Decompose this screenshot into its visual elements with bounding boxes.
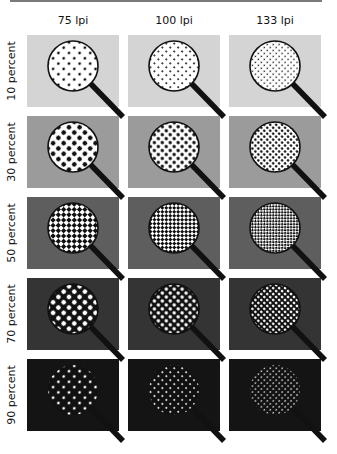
panel-50-percent-100-lpi bbox=[128, 197, 224, 279]
magnifier-lens-icon bbox=[250, 203, 300, 253]
magnifier-lens-icon bbox=[149, 365, 199, 415]
panel-10-percent-133-lpi bbox=[229, 35, 325, 117]
panel-90-percent-133-lpi bbox=[229, 359, 325, 441]
magnifier-lens-icon bbox=[250, 122, 300, 172]
panel-70-percent-100-lpi bbox=[128, 278, 224, 360]
magnifier-lens-icon bbox=[250, 284, 300, 334]
panel-50-percent-133-lpi bbox=[229, 197, 325, 279]
magnifier-lens-icon bbox=[48, 203, 98, 253]
panel-30-percent-133-lpi bbox=[229, 116, 325, 198]
magnifier-lens-icon bbox=[250, 365, 300, 415]
panel-70-percent-133-lpi bbox=[229, 278, 325, 360]
magnifier-lens-icon bbox=[149, 203, 199, 253]
magnifier-lens-icon bbox=[250, 41, 300, 91]
magnifier-lens-icon bbox=[48, 365, 98, 415]
magnifier-lens-icon bbox=[149, 122, 199, 172]
magnifier-lens-icon bbox=[48, 41, 98, 91]
magnifier-lens-icon bbox=[48, 122, 98, 172]
panel-10-percent-100-lpi bbox=[128, 35, 224, 117]
magnifier-lens-icon bbox=[149, 284, 199, 334]
panel-30-percent-75-lpi bbox=[27, 116, 123, 198]
panel-90-percent-100-lpi bbox=[128, 359, 224, 441]
magnifier-lens-icon bbox=[48, 284, 98, 334]
magnifier-lens-icon bbox=[149, 41, 199, 91]
panel-30-percent-100-lpi bbox=[128, 116, 224, 198]
halftone-magnifier-grid bbox=[0, 0, 337, 454]
panel-90-percent-75-lpi bbox=[27, 359, 123, 441]
panel-50-percent-75-lpi bbox=[27, 197, 123, 279]
panel-10-percent-75-lpi bbox=[27, 35, 123, 117]
panel-70-percent-75-lpi bbox=[27, 278, 123, 360]
